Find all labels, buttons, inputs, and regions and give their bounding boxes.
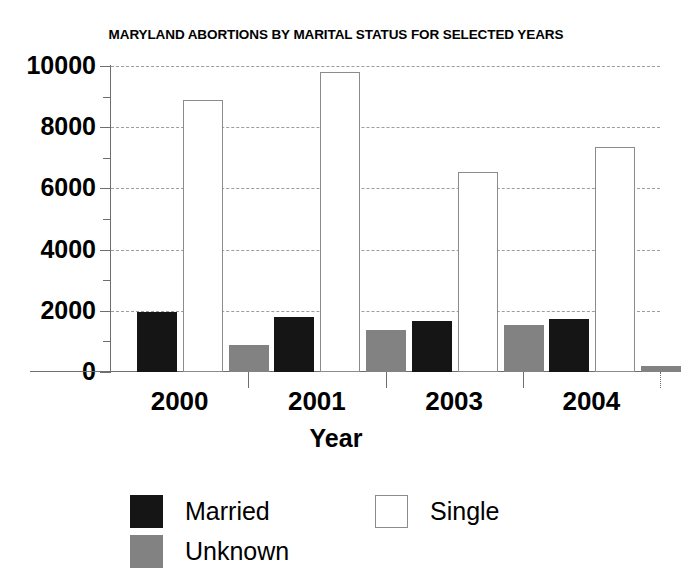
y-tick-label: 6000 <box>4 175 96 200</box>
legend-swatch-married-icon <box>130 495 163 528</box>
legend-row-2: Unknown <box>130 535 570 575</box>
y-tick-label: 2000 <box>4 298 96 323</box>
chart-title: MARYLAND ABORTIONS BY MARITAL STATUS FOR… <box>0 27 672 42</box>
bar-2000-single <box>183 100 223 372</box>
bar-2001-married <box>274 317 314 372</box>
bar-2003-married <box>412 321 452 372</box>
legend-item-single: Single <box>375 495 500 528</box>
legend-label-single: Single <box>430 497 500 526</box>
x-axis-title: Year <box>0 424 672 453</box>
legend-row-1: Married Single <box>130 495 570 535</box>
bar-2003-single <box>458 172 498 372</box>
gridline <box>111 66 660 67</box>
bar-2001-unknown <box>366 330 406 372</box>
y-tick-label: 4000 <box>4 237 96 262</box>
bar-2004-married <box>549 319 589 372</box>
legend-label-married: Married <box>185 497 270 526</box>
legend-swatch-unknown-icon <box>130 535 163 568</box>
legend-item-unknown: Unknown <box>130 535 289 568</box>
x-tick-label-2003: 2003 <box>379 386 529 417</box>
legend-label-unknown: Unknown <box>185 537 289 566</box>
legend-item-married: Married <box>130 495 270 528</box>
x-tick-label-2000: 2000 <box>105 386 255 417</box>
chart-legend: Married Single Unknown <box>130 495 570 575</box>
bar-2001-single <box>320 72 360 372</box>
x-tick-label-2001: 2001 <box>242 386 392 417</box>
bar-2000-married <box>137 312 177 372</box>
x-tick-label-2004: 2004 <box>516 386 666 417</box>
bar-2003-unknown <box>504 325 544 372</box>
y-tick-label: 10000 <box>4 53 96 78</box>
bar-2000-unknown <box>229 345 269 372</box>
y-tick-label: 8000 <box>4 114 96 139</box>
plot-area <box>111 66 660 372</box>
bar-2004-single <box>595 147 635 372</box>
legend-swatch-single-icon <box>375 495 408 528</box>
